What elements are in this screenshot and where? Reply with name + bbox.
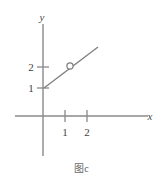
- coordinate-plot: x y 1 2 2 1: [0, 0, 163, 186]
- y-axis-label: y: [39, 11, 45, 23]
- x-tick-label-1: 1: [62, 126, 68, 138]
- figure-caption-suffix: c: [84, 163, 89, 174]
- open-circle-marker: [67, 63, 73, 69]
- figure-caption-glyph: 图: [74, 163, 85, 174]
- x-axis-label: x: [147, 110, 153, 122]
- figure-caption: 图c: [0, 160, 163, 175]
- y-tick-label-2: 2: [28, 61, 34, 73]
- figure-container: x y 1 2 2 1 图c: [0, 0, 163, 186]
- x-tick-label-2: 2: [84, 126, 90, 138]
- y-tick-label-1: 1: [28, 82, 34, 94]
